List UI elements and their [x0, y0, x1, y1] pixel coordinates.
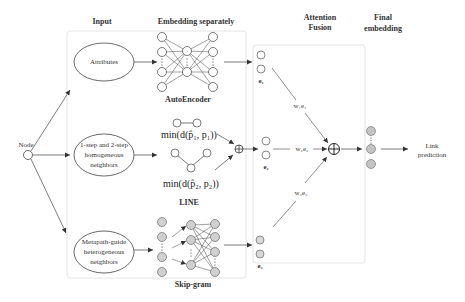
- w1e1-label: w₁e₁: [293, 102, 306, 110]
- link-prediction-label-2: prediction: [418, 151, 447, 159]
- line-formula-1: min(d(p̂₁, p₁)): [161, 129, 217, 141]
- fusion-plus-icon: [329, 144, 340, 155]
- header-input: Input: [92, 17, 111, 26]
- line-second-order-graph: [171, 149, 211, 172]
- homogeneous-label-2: homogeneous: [85, 151, 124, 159]
- embedding-e2: [262, 137, 270, 159]
- metapath-label-3: neighbors: [90, 258, 118, 266]
- concat-plus-icon: [235, 145, 243, 153]
- arrow-node-to-attributes: [31, 90, 70, 151]
- skipgram-nodes: [158, 218, 220, 277]
- w2e2-label: w₂e₂: [295, 145, 309, 153]
- node-circle: [24, 151, 33, 160]
- line-label: LINE: [179, 198, 199, 207]
- header-attention-1: Attention: [304, 13, 337, 22]
- weight-line-1b: [305, 113, 328, 143]
- e3-label: e₃: [257, 262, 262, 270]
- autoencoder-ellipsis: [161, 58, 213, 65]
- line-formula-2: min(d(p̂₂, p₂)): [163, 178, 219, 190]
- e2-label: e₂: [263, 163, 268, 171]
- e1-label: e₁: [258, 77, 263, 85]
- arrow-formula1-to-plus: [217, 134, 234, 144]
- line-first-order-graph: [173, 119, 201, 127]
- metapath-label-2: heterogeneous: [84, 248, 125, 256]
- weight-line-1a: [272, 68, 296, 100]
- attributes-label: Attributes: [90, 58, 118, 66]
- embedding-e3: [256, 236, 264, 258]
- diagram-canvas: Input Embedding separately Attention Fus…: [0, 0, 465, 302]
- final-embedding: [367, 127, 376, 169]
- weight-line-3b: [305, 157, 327, 183]
- arrow-formula2-to-plus: [215, 155, 233, 170]
- header-embedding: Embedding separately: [158, 17, 235, 26]
- header-final-2: embedding: [364, 24, 402, 33]
- node-label: Node: [18, 141, 33, 149]
- homogeneous-label-1: 1-step and 2-step: [80, 141, 128, 149]
- embedding-e1: [257, 51, 265, 73]
- header-final-1: Final: [374, 13, 393, 22]
- metapath-label-1: Metapath-guide: [82, 238, 126, 246]
- skipgram-label: Skip-gram: [175, 280, 212, 289]
- arrow-node-to-metapath: [31, 159, 66, 233]
- autoencoder-label: AutoEncoder: [165, 95, 211, 104]
- homogeneous-label-3: neighbors: [90, 161, 118, 169]
- header-attention-2: Fusion: [308, 23, 332, 32]
- link-prediction-label-1: Link: [425, 142, 439, 150]
- weight-line-3a: [273, 201, 296, 227]
- w3e3-label: w₃e₃: [294, 189, 308, 197]
